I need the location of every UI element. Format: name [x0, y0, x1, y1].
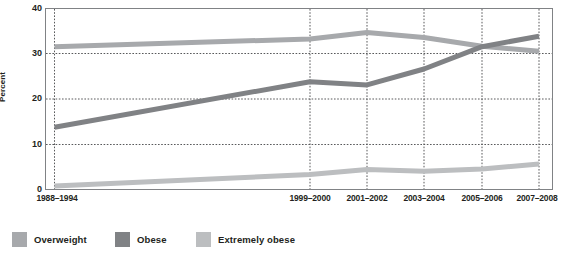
chart-figure: Percent 40 30 20 10 0	[0, 0, 569, 263]
x-tick-2007-2008: 2007–2008	[516, 193, 557, 203]
legend-item-overweight: Overweight	[12, 228, 87, 250]
y-tick-40: 40	[4, 4, 42, 13]
legend-swatch-obese	[115, 232, 130, 247]
chart-canvas	[45, 8, 553, 190]
legend-label-extremely-obese: Extremely obese	[218, 234, 295, 245]
x-tick-2003-2004: 2003–2004	[403, 193, 444, 203]
series-line-obese	[55, 36, 540, 127]
x-tick-1988-1994: 1988–1994	[36, 193, 77, 203]
x-tick-1999-2000: 1999–2000	[289, 193, 330, 203]
legend-label-overweight: Overweight	[34, 234, 87, 245]
y-axis-ticks: 40 30 20 10 0	[0, 0, 42, 200]
legend-swatch-extremely-obese	[196, 232, 211, 247]
legend-item-obese: Obese	[115, 228, 167, 250]
legend-swatch-overweight	[12, 232, 27, 247]
x-tick-2001-2002: 2001–2002	[346, 193, 387, 203]
plot-area	[45, 8, 553, 190]
x-axis-ticks: 1988–1994 1999–2000 2001–2002 2003–2004 …	[0, 193, 569, 209]
y-tick-10: 10	[4, 140, 42, 149]
series-line-overweight	[55, 33, 540, 52]
y-tick-20: 20	[4, 94, 42, 103]
legend-item-extremely-obese: Extremely obese	[196, 228, 295, 250]
y-tick-30: 30	[4, 49, 42, 58]
chart-legend: Overweight Obese Extremely obese	[0, 228, 569, 254]
x-tick-2005-2006: 2005–2006	[461, 193, 502, 203]
series-line-extremely-obese	[55, 164, 540, 186]
data-series-group	[55, 33, 540, 186]
legend-label-obese: Obese	[137, 234, 167, 245]
horizontal-gridlines	[46, 54, 552, 145]
